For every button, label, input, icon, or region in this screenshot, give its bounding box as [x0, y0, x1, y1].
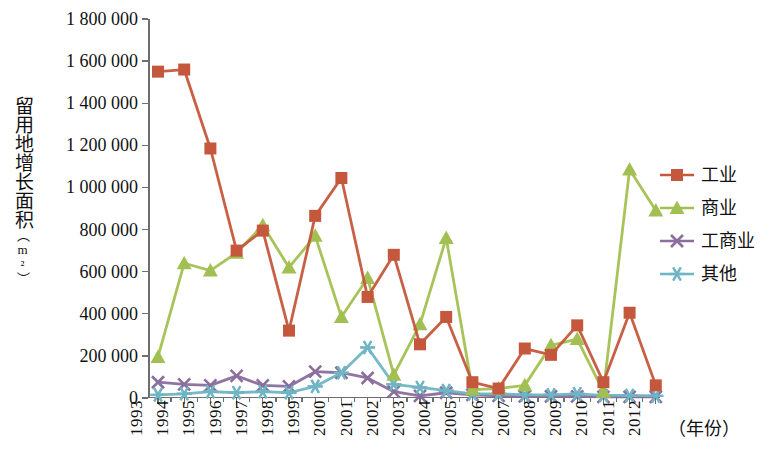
data-point	[388, 249, 400, 261]
legend-item-3[interactable]: 其他	[660, 257, 776, 290]
data-point	[571, 319, 583, 331]
legend-marker-square-icon	[660, 168, 694, 182]
data-point	[622, 162, 637, 176]
data-point	[597, 376, 609, 388]
legend-item-1[interactable]: 商业	[660, 191, 776, 224]
data-point	[362, 291, 374, 303]
y-axis-tick	[142, 103, 148, 104]
x-axis-tick-labels: 1993199419951996199719981999200020012002…	[148, 400, 668, 462]
data-point	[178, 64, 190, 76]
y-axis-tick-labels: 0200 000400 000600 000800 0001 000 0001 …	[20, 0, 138, 465]
y-axis-tick-label: 400 000	[20, 305, 138, 323]
legend-label: 工商业	[701, 232, 755, 250]
y-axis-tick	[142, 229, 148, 230]
y-axis-tick	[142, 397, 148, 398]
data-point	[257, 225, 269, 237]
legend-point	[670, 267, 685, 280]
legend-marker-x-icon	[660, 234, 694, 248]
legend-item-2[interactable]: 工商业	[660, 224, 776, 257]
data-point	[204, 142, 216, 154]
y-axis-tick-label: 1 800 000	[20, 10, 138, 28]
y-axis-tick-label: 600 000	[20, 263, 138, 281]
data-point	[414, 338, 426, 350]
line-chart: 留用地增长面积（m²） 0200 000400 000600 000800 00…	[0, 0, 776, 465]
data-point	[440, 311, 452, 323]
data-point	[151, 349, 166, 363]
data-point	[308, 380, 323, 393]
y-axis-tick-label: 200 000	[20, 347, 138, 365]
y-axis-tick-label: 800 000	[20, 221, 138, 239]
y-axis-tick	[142, 18, 148, 19]
chart-legend: 工业商业工商业其他	[660, 158, 776, 290]
data-point	[335, 172, 347, 184]
data-point	[519, 343, 531, 355]
y-axis-tick	[142, 60, 148, 61]
data-point	[493, 383, 505, 395]
y-axis-tick-label: 0	[20, 389, 138, 407]
y-axis-tick	[142, 145, 148, 146]
data-point	[650, 379, 662, 391]
data-point	[231, 370, 243, 382]
legend-marker-asterisk-icon	[660, 267, 694, 281]
y-axis-tick	[142, 271, 148, 272]
series-layer	[148, 19, 660, 398]
y-axis-tick	[142, 187, 148, 188]
data-point	[152, 66, 164, 78]
series-1	[151, 162, 664, 398]
data-point	[439, 230, 454, 244]
legend-item-0[interactable]: 工业	[660, 158, 776, 191]
data-point	[386, 367, 401, 381]
y-axis-tick-label: 1 600 000	[20, 52, 138, 70]
data-point	[545, 349, 557, 361]
y-axis-tick-label: 1 200 000	[20, 136, 138, 154]
series-0	[152, 64, 662, 395]
plot-area	[148, 19, 660, 398]
legend-label: 商业	[701, 199, 737, 217]
y-axis-tick	[142, 355, 148, 356]
x-axis-title: （年份）	[668, 414, 740, 440]
data-point	[309, 210, 321, 222]
y-axis-tick-label: 1 400 000	[20, 94, 138, 112]
y-axis-tick	[142, 313, 148, 314]
legend-point	[671, 169, 683, 181]
data-point	[624, 307, 636, 319]
legend-label: 工业	[701, 166, 737, 184]
legend-label: 其他	[701, 265, 737, 283]
data-point	[466, 376, 478, 388]
series-line	[158, 170, 656, 392]
data-point	[231, 245, 243, 257]
data-point	[177, 256, 192, 270]
legend-marker-triangle-icon	[660, 201, 694, 215]
y-axis-tick-label: 1 000 000	[20, 178, 138, 196]
data-point	[283, 325, 295, 337]
